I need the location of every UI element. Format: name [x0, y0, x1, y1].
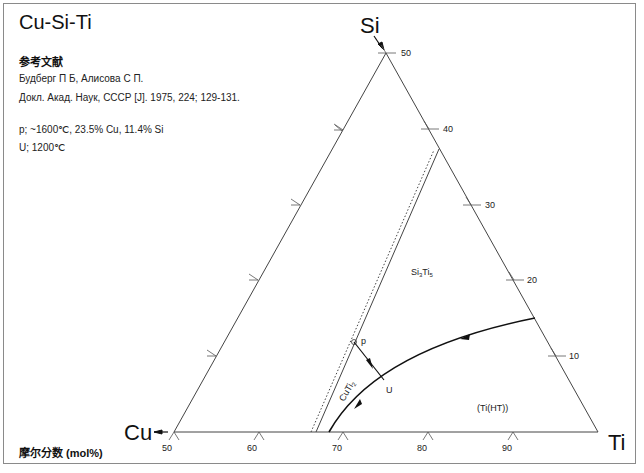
tick-70: 70 — [332, 443, 342, 453]
svg-text:10: 10 — [569, 351, 579, 361]
cuti2-boundary — [316, 149, 439, 432]
svg-text:20: 20 — [527, 275, 537, 285]
tick-60: 60 — [247, 443, 257, 453]
curve-arrow-lower — [354, 399, 362, 409]
p-u-arrow — [366, 358, 373, 369]
right-tick-labels: 50 40 30 20 10 — [401, 48, 579, 361]
right-ticks — [378, 45, 566, 356]
svg-text:40: 40 — [443, 124, 453, 134]
tick-90: 90 — [502, 443, 512, 453]
corner-si-label: Si — [360, 13, 380, 38]
point-u-label: U — [386, 385, 393, 395]
triangle-outline — [174, 53, 598, 432]
phase-cuti2-label: CuTi2 — [337, 378, 358, 403]
svg-text:50: 50 — [401, 48, 411, 58]
corner-arrows — [154, 36, 384, 434]
eutectic-curve — [329, 318, 535, 432]
corner-cu-label: Cu — [124, 420, 152, 445]
svg-text:30: 30 — [485, 200, 495, 210]
dotted-boundary — [311, 150, 434, 432]
corner-ti-label: Ti — [608, 430, 626, 455]
left-ticks — [207, 124, 343, 356]
phase-si3ti5-label: Si3Ti5 — [411, 267, 434, 278]
bottom-ticks — [169, 432, 518, 440]
tick-80: 80 — [417, 443, 427, 453]
ternary-diagram: 50 60 70 80 90 50 40 30 20 10 — [0, 0, 644, 473]
tick-50: 50 — [162, 443, 172, 453]
bottom-tick-labels: 50 60 70 80 90 — [162, 443, 512, 453]
phase-ti-ht-label: (Ti(HT)) — [477, 403, 508, 413]
point-p-label: p — [361, 336, 366, 346]
